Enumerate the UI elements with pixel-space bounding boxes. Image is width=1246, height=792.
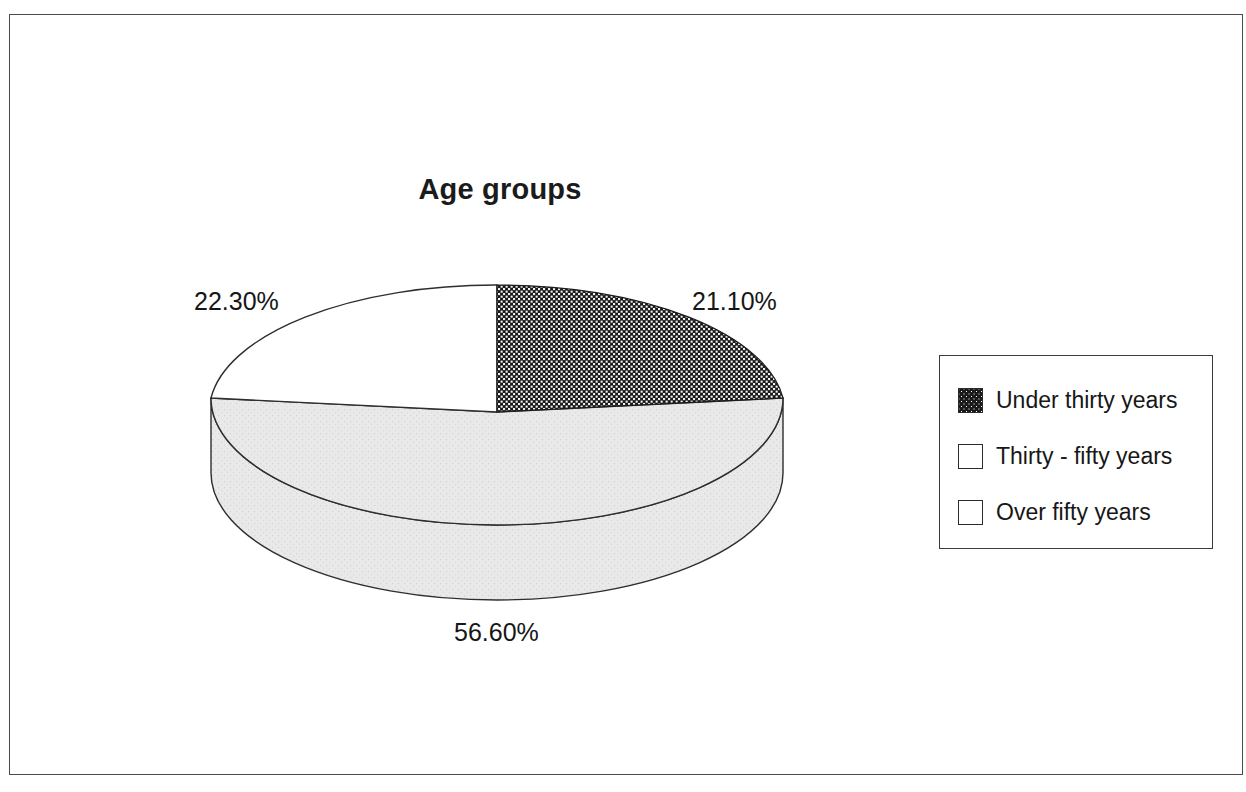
legend-label-thirty-fifty: Thirty - fifty years xyxy=(996,443,1172,470)
legend-swatch-icon-thirty-fifty xyxy=(958,444,983,469)
legend-item-over-fifty[interactable]: Over fifty years xyxy=(958,484,1212,540)
slice-label-over-fifty: 56.60% xyxy=(454,618,539,647)
legend-item-thirty-fifty[interactable]: Thirty - fifty years xyxy=(958,428,1212,484)
slice-label-thirty-fifty: 22.30% xyxy=(194,287,279,316)
legend-label-under-thirty: Under thirty years xyxy=(996,387,1178,414)
legend-label-over-fifty: Over fifty years xyxy=(996,499,1151,526)
chart-legend: Under thirty years Thirty - fifty years … xyxy=(939,355,1213,549)
slice-label-under-thirty: 21.10% xyxy=(692,287,777,316)
page-border-frame: Age groups xyxy=(9,14,1243,775)
legend-item-under-thirty[interactable]: Under thirty years xyxy=(958,372,1212,428)
legend-swatch-icon-over-fifty xyxy=(958,500,983,525)
legend-swatch-icon-under-thirty xyxy=(958,388,983,413)
chart-page: Age groups xyxy=(0,0,1246,792)
